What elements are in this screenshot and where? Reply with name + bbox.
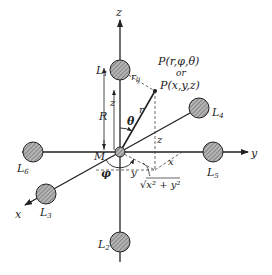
z-axis-label: z bbox=[115, 6, 122, 19]
sqrt-label: √x² + y² bbox=[140, 179, 180, 190]
point-label-cartesian: P(x,y,z) bbox=[159, 79, 200, 92]
y-axis-label: y bbox=[250, 147, 258, 160]
sqrt-leader bbox=[143, 163, 150, 176]
theta-label: θ bbox=[127, 115, 135, 128]
label-l5: L5 bbox=[206, 166, 219, 180]
conductor-l3 bbox=[36, 184, 56, 204]
conductor-l5 bbox=[203, 142, 223, 162]
label-l6: L6 bbox=[16, 162, 29, 176]
R-label: R bbox=[98, 110, 107, 123]
label-l3: L3 bbox=[39, 206, 52, 220]
theta-arc bbox=[120, 128, 132, 131]
label-l4: L4 bbox=[211, 106, 224, 120]
z-vertical-label: z bbox=[156, 134, 163, 145]
phi-label: φ bbox=[101, 167, 111, 180]
label-l2: L2 bbox=[97, 238, 110, 252]
x-axis-label: x bbox=[15, 208, 22, 221]
conductor-l1 bbox=[110, 60, 130, 80]
conductor-l4 bbox=[189, 98, 209, 118]
point-label-spherical: P(r,φ,θ) bbox=[157, 55, 199, 68]
x-proj-label: x bbox=[168, 156, 174, 167]
r-lj-label: rlj bbox=[131, 71, 141, 84]
origin-label: M bbox=[93, 150, 106, 163]
conductor-l2 bbox=[110, 232, 130, 252]
label-l1: L1 bbox=[95, 64, 108, 78]
point-label-or: or bbox=[176, 68, 186, 78]
z-small-label: z bbox=[109, 97, 116, 108]
y-proj-label: y bbox=[130, 167, 137, 178]
conductor-l6 bbox=[23, 142, 43, 162]
origin-conductor bbox=[115, 147, 125, 157]
coordinate-diagram: z y x M L1 L2 L3 L4 L5 L6 P(r,φ,θ) or P(… bbox=[0, 0, 272, 275]
